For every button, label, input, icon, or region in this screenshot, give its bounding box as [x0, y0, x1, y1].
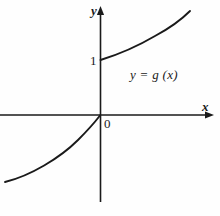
- x-axis-label: x: [202, 100, 209, 113]
- origin-label: 0: [104, 117, 111, 130]
- curve-left-branch: [5, 116, 100, 183]
- graph-canvas: [0, 0, 220, 216]
- curve-equation-label: y = g (x): [130, 68, 178, 81]
- y-axis-label: y: [91, 4, 97, 17]
- y-tick-label-1: 1: [90, 54, 97, 67]
- math-figure-graph: y x 1 0 y = g (x): [0, 0, 220, 216]
- curve-right-branch: [101, 11, 191, 60]
- y-axis-arrowhead: [97, 6, 104, 15]
